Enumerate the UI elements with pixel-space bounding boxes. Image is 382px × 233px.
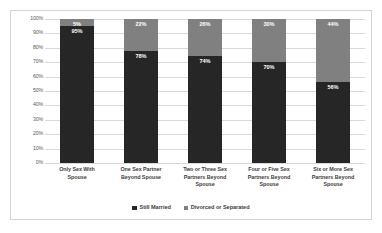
y-axis-tick-label: 20%	[15, 132, 43, 137]
y-axis-tick-label: 60%	[15, 74, 43, 79]
x-axis-category-label-line: Four or Five Sex	[238, 166, 300, 174]
bar-segment-divorced-or-separated[interactable]: 22%	[124, 19, 158, 51]
bar-slot: 22%78%	[109, 19, 173, 163]
chart-legend: Still MarriedDivorced or Separated	[11, 205, 371, 211]
y-axis-tick-label: 80%	[15, 45, 43, 50]
y-axis-tick-label: 40%	[15, 103, 43, 108]
bar-series-group: 5%95%22%78%26%74%30%70%44%56%	[45, 19, 365, 163]
bar-segment-still-married[interactable]: 78%	[124, 51, 158, 163]
bar-data-label: 95%	[72, 29, 83, 35]
x-axis-category-label: One Sex PartnerBeyond Spouse	[109, 166, 173, 202]
plot-area: 5%95%22%78%26%74%30%70%44%56%	[45, 19, 365, 163]
y-axis-tick-label: 70%	[15, 60, 43, 65]
bar-slot: 30%70%	[237, 19, 301, 163]
y-axis-tick-label: 0%	[15, 160, 43, 165]
y-axis-tick-label: 30%	[15, 117, 43, 122]
x-axis-category-label-line: Beyond Spouse	[110, 174, 172, 182]
x-axis-category-label-line: One Sex Partner	[110, 166, 172, 174]
bar-data-label: 22%	[136, 22, 147, 28]
legend-label: Divorced or Separated	[191, 205, 250, 211]
stacked-bar[interactable]: 5%95%	[60, 19, 94, 163]
y-axis-tick-label: 10%	[15, 146, 43, 151]
bar-slot: 5%95%	[45, 19, 109, 163]
x-axis-category-label-line: Partners Beyond	[238, 174, 300, 182]
x-axis-category-label-line: Two or Three Sex	[174, 166, 236, 174]
bar-data-label: 26%	[200, 22, 211, 28]
x-axis-category-labels: Only Sex WithSpouseOne Sex PartnerBeyond…	[45, 166, 365, 202]
gridline	[45, 163, 365, 164]
bar-data-label: 30%	[264, 22, 275, 28]
x-axis-category-label-line: Spouse	[238, 181, 300, 189]
bar-segment-still-married[interactable]: 95%	[60, 26, 94, 163]
x-axis-category-label-line: Partners Beyond	[174, 174, 236, 182]
bar-segment-still-married[interactable]: 56%	[316, 82, 350, 163]
x-axis-category-label-line: Spouse	[302, 181, 364, 189]
y-axis: 100%90%80%70%60%50%40%30%20%10%0%	[15, 19, 43, 163]
x-axis-category-label-line: Six or More Sex	[302, 166, 364, 174]
stacked-bar[interactable]: 44%56%	[316, 19, 350, 163]
bar-segment-divorced-or-separated[interactable]: 5%	[60, 19, 94, 26]
bar-segment-divorced-or-separated[interactable]: 26%	[188, 19, 222, 56]
x-axis-category-label: Only Sex WithSpouse	[45, 166, 109, 202]
x-axis-category-label: Four or Five SexPartners BeyondSpouse	[237, 166, 301, 202]
bar-data-label: 44%	[328, 22, 339, 28]
x-axis-category-label: Two or Three SexPartners BeyondSpouse	[173, 166, 237, 202]
chart-container: 100%90%80%70%60%50%40%30%20%10%0% 5%95%2…	[10, 10, 372, 220]
stacked-bar[interactable]: 26%74%	[188, 19, 222, 163]
bar-data-label: 56%	[328, 85, 339, 91]
legend-swatch-icon	[184, 206, 189, 211]
bar-data-label: 78%	[136, 54, 147, 60]
stacked-bar[interactable]: 30%70%	[252, 19, 286, 163]
y-axis-tick-label: 50%	[15, 88, 43, 93]
bar-data-label: 74%	[200, 59, 211, 65]
bar-slot: 44%56%	[301, 19, 365, 163]
bar-slot: 26%74%	[173, 19, 237, 163]
x-axis-category-label-line: Partners Beyond	[302, 174, 364, 182]
y-axis-tick-label: 100%	[15, 16, 43, 21]
plot-wrapper: 100%90%80%70%60%50%40%30%20%10%0% 5%95%2…	[11, 11, 371, 219]
x-axis-category-label: Six or More SexPartners BeyondSpouse	[301, 166, 365, 202]
bar-segment-divorced-or-separated[interactable]: 44%	[316, 19, 350, 82]
bar-segment-divorced-or-separated[interactable]: 30%	[252, 19, 286, 62]
bar-segment-still-married[interactable]: 74%	[188, 56, 222, 163]
x-axis-category-label-line: Spouse	[46, 174, 108, 182]
legend-item[interactable]: Divorced or Separated	[184, 205, 250, 211]
x-axis-category-label-line: Spouse	[174, 181, 236, 189]
x-axis-category-label-line: Only Sex With	[46, 166, 108, 174]
y-axis-tick-label: 90%	[15, 31, 43, 36]
stacked-bar[interactable]: 22%78%	[124, 19, 158, 163]
bar-segment-still-married[interactable]: 70%	[252, 62, 286, 163]
legend-item[interactable]: Still Married	[132, 205, 170, 211]
legend-swatch-icon	[132, 206, 137, 211]
bar-data-label: 70%	[264, 65, 275, 71]
legend-label: Still Married	[139, 205, 170, 211]
